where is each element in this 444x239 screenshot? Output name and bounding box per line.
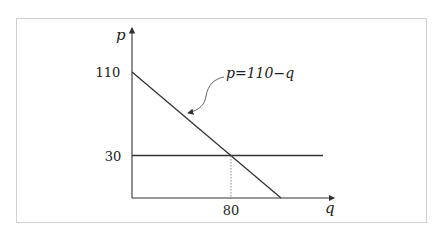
demand-line (132, 72, 281, 198)
y-axis-label: p (116, 26, 126, 44)
x-axis-label: q (325, 199, 335, 217)
y-tick-30: 30 (105, 149, 122, 164)
chart-canvas: p q 110 30 80 p=110−q (0, 0, 444, 239)
y-tick-110: 110 (96, 65, 121, 80)
x-tick-80: 80 (223, 203, 240, 218)
annotation-arrow (188, 77, 224, 113)
equation-label: p=110−q (226, 65, 294, 81)
